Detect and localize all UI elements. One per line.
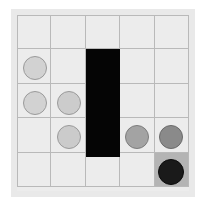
- grid-cell-r2c4[interactable]: [120, 49, 154, 83]
- grid-cell-r1c5[interactable]: [155, 15, 189, 49]
- piece-r4c4[interactable]: [125, 125, 149, 149]
- piece-r3c2[interactable]: [57, 91, 81, 115]
- grid-cell-r3c5[interactable]: [155, 84, 189, 118]
- board-grid: [17, 15, 189, 191]
- grid-cell-r1c4[interactable]: [120, 15, 154, 49]
- wall-block: [86, 49, 120, 157]
- grid-cell-r2c2[interactable]: [51, 49, 85, 83]
- grid-cell-r3c4[interactable]: [120, 84, 154, 118]
- piece-r5c5[interactable]: [158, 159, 184, 185]
- piece-r2c1[interactable]: [23, 56, 47, 80]
- grid-cell-r2c5[interactable]: [155, 49, 189, 83]
- grid-cell-r5c3[interactable]: [86, 153, 120, 187]
- piece-r3c1[interactable]: [23, 91, 47, 115]
- piece-r4c5[interactable]: [159, 125, 183, 149]
- grid-cell-r5c1[interactable]: [17, 153, 51, 187]
- board-root: [0, 0, 206, 211]
- grid-cell-r1c3[interactable]: [86, 15, 120, 49]
- grid-cell-r1c1[interactable]: [17, 15, 51, 49]
- grid-cell-r5c2[interactable]: [51, 153, 85, 187]
- grid-cell-r5c4[interactable]: [120, 153, 154, 187]
- grid-cell-r4c1[interactable]: [17, 118, 51, 152]
- grid-cell-r1c2[interactable]: [51, 15, 85, 49]
- piece-r4c2[interactable]: [57, 125, 81, 149]
